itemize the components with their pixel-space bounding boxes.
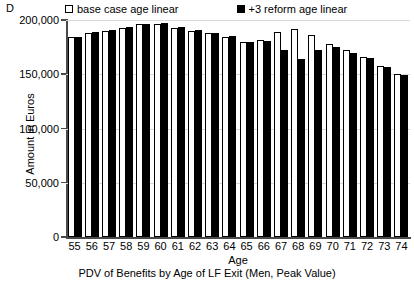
- bar-base-case-age-66: [257, 40, 264, 237]
- bar-reform-age-56: [92, 32, 99, 237]
- x-tick-label-71: 71: [341, 240, 358, 253]
- bar-reform-age-69: [315, 50, 322, 237]
- bar-reform-age-70: [333, 47, 340, 237]
- x-tick-label-55: 55: [66, 240, 83, 253]
- bar-group: [393, 20, 410, 237]
- bar-reform-age-62: [195, 30, 202, 237]
- y-tick-label: 50,000: [10, 178, 66, 189]
- bar-group: [118, 20, 135, 237]
- x-axis-line: [66, 237, 411, 239]
- bar-base-case-age-62: [188, 31, 195, 237]
- bar-group: [238, 20, 255, 237]
- x-tick-label-72: 72: [358, 240, 375, 253]
- bar-group: [358, 20, 375, 237]
- x-tick-label-58: 58: [118, 240, 135, 253]
- y-tick-label: 200,000: [10, 15, 66, 26]
- bar-group: [66, 20, 83, 237]
- bar-reform-age-72: [367, 58, 374, 237]
- x-tick-label-74: 74: [393, 240, 410, 253]
- x-tick-label-60: 60: [152, 240, 169, 253]
- bar-base-case-age-57: [102, 31, 109, 237]
- open-square-icon: [65, 5, 73, 13]
- chart-title: PDV of Benefits by Age of LF Exit (Men, …: [0, 267, 414, 280]
- bar-group: [307, 20, 324, 237]
- y-tick-label: 100,000: [10, 124, 66, 135]
- bar-group: [186, 20, 203, 237]
- filled-square-icon: [237, 5, 245, 13]
- bar-group: [255, 20, 272, 237]
- x-tick-label-73: 73: [376, 240, 393, 253]
- bar-group: [100, 20, 117, 237]
- bar-base-case-age-65: [240, 42, 247, 237]
- bar-base-case-age-63: [205, 33, 212, 237]
- bar-base-case-age-59: [136, 24, 143, 237]
- x-tick-label-61: 61: [169, 240, 186, 253]
- bar-reform-age-55: [75, 37, 82, 237]
- bar-group: [169, 20, 186, 237]
- bar-group: [221, 20, 238, 237]
- x-tick-label-70: 70: [324, 240, 341, 253]
- bar-reform-age-71: [350, 53, 357, 237]
- x-tick-label-67: 67: [272, 240, 289, 253]
- bar-group: [272, 20, 289, 237]
- panel-label: D: [6, 2, 14, 14]
- x-tick-label-69: 69: [307, 240, 324, 253]
- x-tick-label-62: 62: [186, 240, 203, 253]
- x-tick-label-65: 65: [238, 240, 255, 253]
- bar-base-case-age-64: [222, 37, 229, 237]
- legend-entry-base-case: base case age linear: [65, 3, 179, 15]
- x-tick-label-63: 63: [204, 240, 221, 253]
- bar-base-case-age-74: [394, 74, 401, 237]
- bar-group: [324, 20, 341, 237]
- bar-base-case-age-72: [360, 57, 367, 237]
- bar-base-case-age-58: [119, 28, 126, 237]
- bar-series-container: [66, 20, 410, 237]
- bar-group: [135, 20, 152, 237]
- x-axis-ticks: 5556575859606162636465666768697071727374: [66, 240, 410, 253]
- plot-area: 050,000100,000150,000200,000: [66, 20, 410, 237]
- bar-group: [83, 20, 100, 237]
- bar-reform-age-64: [229, 36, 236, 237]
- bar-reform-age-66: [264, 41, 271, 237]
- bar-reform-age-63: [212, 33, 219, 237]
- bar-group: [204, 20, 221, 237]
- bar-reform-age-74: [401, 75, 408, 237]
- bar-base-case-age-73: [377, 66, 384, 237]
- legend-entry-reform: +3 reform age linear: [237, 3, 348, 15]
- bar-reform-age-61: [178, 27, 185, 237]
- bar-group: [341, 20, 358, 237]
- x-tick-label-59: 59: [135, 240, 152, 253]
- legend-label-reform: +3 reform age linear: [249, 3, 348, 15]
- bar-group: [290, 20, 307, 237]
- bar-reform-age-59: [143, 24, 150, 237]
- bar-base-case-age-70: [326, 44, 333, 237]
- bar-base-case-age-61: [171, 28, 178, 237]
- bar-reform-age-67: [281, 50, 288, 237]
- y-tick-label: 150,000: [10, 69, 66, 80]
- bar-base-case-age-68: [291, 29, 298, 237]
- legend-label-base-case: base case age linear: [77, 3, 179, 15]
- x-tick-label-64: 64: [221, 240, 238, 253]
- y-tick-label: 0: [10, 232, 66, 243]
- x-tick-label-56: 56: [83, 240, 100, 253]
- x-tick-label-66: 66: [255, 240, 272, 253]
- bar-reform-age-58: [126, 27, 133, 237]
- bar-reform-age-57: [109, 30, 116, 237]
- bar-base-case-age-56: [85, 33, 92, 237]
- bar-reform-age-65: [247, 42, 254, 237]
- bar-reform-age-60: [161, 23, 168, 237]
- x-tick-label-68: 68: [290, 240, 307, 253]
- bar-reform-age-73: [384, 67, 391, 237]
- chart-legend: base case age linear +3 reform age linea…: [60, 1, 410, 17]
- bar-base-case-age-71: [343, 50, 350, 237]
- bar-base-case-age-55: [68, 37, 75, 237]
- bar-group: [376, 20, 393, 237]
- bar-base-case-age-67: [274, 32, 281, 237]
- x-tick-label-57: 57: [100, 240, 117, 253]
- bar-group: [152, 20, 169, 237]
- bar-base-case-age-69: [308, 35, 315, 237]
- chart-figure: D base case age linear +3 reform age lin…: [0, 0, 414, 282]
- bar-reform-age-68: [298, 59, 305, 237]
- x-axis-label: Age: [66, 254, 410, 267]
- bar-base-case-age-60: [154, 24, 161, 237]
